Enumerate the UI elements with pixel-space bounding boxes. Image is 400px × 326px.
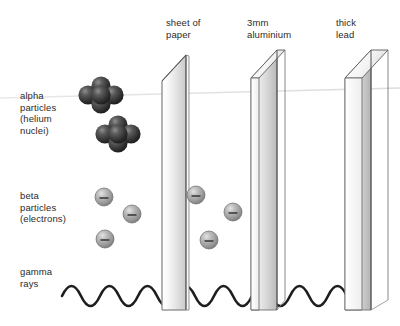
alpha-particle-cluster (78, 76, 123, 113)
radiation-penetration-diagram: alpha particles (helium nuclei) beta par… (0, 0, 400, 326)
barrier-paper (162, 55, 189, 310)
barrier-aluminium (251, 50, 285, 310)
beta-particle (95, 188, 113, 206)
gamma-ray-wave (62, 286, 366, 306)
label-alpha-particles: alpha particles (helium nuclei) (20, 90, 56, 136)
beta-particle (187, 186, 205, 204)
beta-particle (123, 205, 141, 223)
beta-particle (96, 230, 114, 248)
beta-particle (224, 203, 242, 221)
label-barrier-lead: thick lead (336, 17, 356, 40)
label-barrier-paper: sheet of paper (166, 17, 201, 40)
alpha-particle-cluster (95, 115, 140, 152)
label-beta-particles: beta particles (electrons) (20, 190, 66, 225)
label-barrier-aluminium: 3mm aluminium (247, 17, 291, 40)
label-gamma-rays: gamma rays (20, 266, 52, 289)
perspective-guide-line (0, 88, 400, 98)
diagram-canvas (0, 0, 400, 326)
beta-particle (200, 231, 218, 249)
